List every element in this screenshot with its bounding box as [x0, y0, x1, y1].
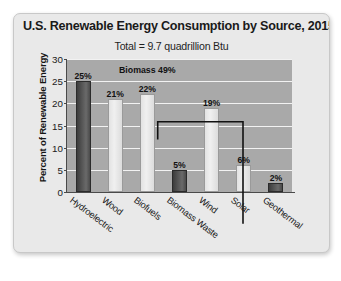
y-axis-tick-mark — [64, 192, 67, 193]
bar-value-label: 5% — [173, 160, 185, 170]
x-axis-tick-label: Wood — [100, 195, 125, 217]
gridline — [67, 148, 292, 149]
bar: 2% — [268, 183, 283, 192]
y-axis-tick-mark — [64, 148, 67, 149]
bar-value-label: 22% — [139, 84, 156, 94]
bar-value-label: 6% — [238, 155, 250, 165]
y-axis-tick-label: 25 — [52, 76, 63, 87]
gridline — [67, 103, 292, 104]
y-axis-tick-label: 0 — [58, 187, 63, 198]
y-axis-tick-mark — [64, 126, 67, 127]
chart-card: U.S. Renewable Energy Consumption by Sou… — [13, 13, 330, 253]
gridline — [67, 81, 292, 82]
bar: 25% — [76, 81, 91, 192]
x-axis-tick-label: Solar — [229, 195, 252, 215]
bar: 5% — [172, 170, 187, 192]
bar: 6% — [236, 165, 251, 192]
x-axis-line — [67, 192, 295, 193]
y-axis-tick-mark — [64, 59, 67, 60]
y-axis-tick-label: 10 — [52, 142, 63, 153]
x-axis-tick-label: Wind — [197, 195, 219, 215]
y-axis-tick-mark — [64, 103, 67, 104]
chart-subtitle: Total = 9.7 quadrillion Btu — [14, 40, 329, 52]
y-axis-title: Percent of Renewable Energy — [37, 43, 48, 193]
bar: 19% — [204, 108, 219, 192]
y-axis-tick-mark — [64, 170, 67, 171]
y-axis-tick-label: 20 — [52, 98, 63, 109]
bar-value-label: 25% — [74, 71, 91, 81]
bar-value-label: 2% — [270, 173, 282, 183]
bar-value-label: 21% — [107, 89, 124, 99]
x-axis-tick-label: Geothermal — [261, 195, 304, 231]
y-axis-tick-label: 30 — [52, 54, 63, 65]
gridline — [67, 59, 292, 60]
y-axis-tick-label: 5 — [58, 164, 63, 175]
bar: 21% — [108, 99, 123, 192]
chart-title: U.S. Renewable Energy Consumption by Sou… — [23, 19, 323, 33]
gridline — [67, 126, 292, 127]
y-axis-tick-label: 15 — [52, 120, 63, 131]
bar-value-label: 19% — [203, 98, 220, 108]
y-axis-tick-mark — [64, 81, 67, 82]
bar: 22% — [140, 94, 155, 192]
screenshot-root: U.S. Renewable Energy Consumption by Sou… — [0, 0, 341, 281]
x-axis-tick-label: Biofuels — [132, 195, 163, 222]
biomass-bracket-label: Biomass 49% — [119, 65, 176, 75]
plot-area: 051015202530 25%21%22%5%19%6%2% Biomass … — [67, 59, 292, 192]
